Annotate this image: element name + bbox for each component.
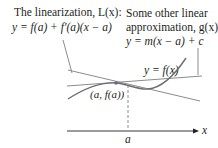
x-axis-label: x: [201, 124, 208, 136]
other-approx-equation: y = m(x − a) + c: [125, 35, 204, 48]
x-axis-arrow-icon: [193, 129, 199, 134]
linearization-title: The linearization, L(x):: [14, 6, 122, 19]
other-approx-subtitle: approximation, g(x):: [126, 21, 218, 34]
tangent-line: [68, 70, 200, 101]
tangency-point: [114, 81, 118, 85]
point-label: (a, f(a)): [90, 88, 125, 101]
tick-label-a: a: [125, 133, 131, 145]
other-approx-title: Some other linear: [126, 7, 208, 19]
linearization-diagram: The linearization, L(x): y = f(a) + f′(a…: [0, 0, 218, 148]
linearization-equation: y = f(a) + f′(a)(x − a): [11, 21, 112, 34]
linearization-pointer: [63, 40, 72, 73]
other-linear-line: [67, 76, 202, 86]
